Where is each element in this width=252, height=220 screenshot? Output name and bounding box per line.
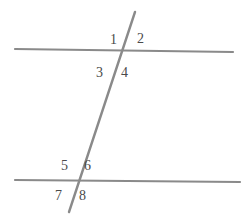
geometry-figure: 1 2 3 4 5 6 7 8: [0, 0, 252, 220]
bottom-parallel-line: [15, 180, 240, 182]
angle-label-7: 7: [55, 189, 62, 203]
angle-label-8: 8: [79, 189, 86, 203]
angle-label-3: 3: [96, 66, 103, 80]
top-parallel-line: [15, 49, 233, 52]
geometry-canvas: [0, 0, 252, 220]
angle-label-5: 5: [61, 159, 68, 173]
angle-label-2: 2: [137, 32, 144, 46]
angle-label-6: 6: [84, 159, 91, 173]
angle-label-4: 4: [121, 66, 128, 80]
angle-label-1: 1: [110, 33, 117, 47]
